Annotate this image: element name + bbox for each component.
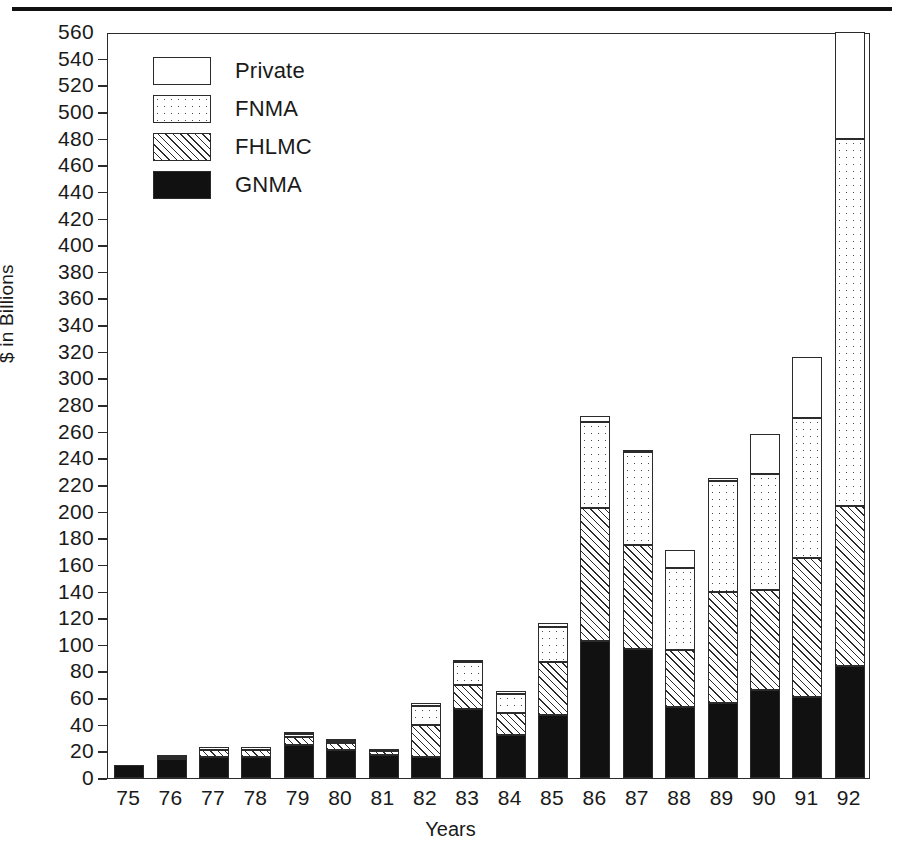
y-tick-label: 500 (24, 100, 94, 124)
bar-89 (708, 32, 738, 778)
bar-segment-92-fnma (835, 139, 865, 507)
bar-segment-87-fhlmc (623, 545, 653, 649)
y-tick-mark (98, 592, 107, 594)
bar-segment-79-gnma (284, 745, 314, 778)
bar-segment-80-private (326, 739, 356, 741)
bar-segment-82-fnma (411, 706, 441, 725)
y-tick-label: 160 (24, 553, 94, 577)
y-tick-mark (98, 778, 107, 780)
bar-76 (157, 32, 187, 778)
bar-segment-83-private (453, 660, 483, 662)
bar-segment-85-gnma (538, 715, 568, 778)
bar-segment-78-fnma (241, 747, 271, 750)
bar-segment-82-fhlmc (411, 725, 441, 757)
y-tick-mark (98, 272, 107, 274)
bar-segment-83-gnma (453, 709, 483, 778)
y-tick-mark (98, 112, 107, 114)
y-tick-mark (98, 139, 107, 141)
bar-86 (580, 32, 610, 778)
bar-segment-88-fnma (665, 568, 695, 651)
y-tick-label: 80 (24, 659, 94, 683)
y-tick-label: 120 (24, 606, 94, 630)
page-top-rule (12, 7, 892, 11)
bar-75 (114, 32, 144, 778)
bar-segment-88-gnma (665, 707, 695, 778)
y-tick-label: 540 (24, 47, 94, 71)
bar-segment-92-gnma (835, 666, 865, 778)
y-tick-mark (98, 512, 107, 514)
bar-segment-77-fnma (199, 747, 229, 750)
y-tick-label: 20 (24, 739, 94, 763)
plot-area: Private FNMA FHLMC GNMA (107, 33, 870, 779)
bar-84 (496, 32, 526, 778)
bar-segment-92-fhlmc (835, 506, 865, 666)
y-tick-label: 460 (24, 153, 94, 177)
bar-segment-89-gnma (708, 703, 738, 778)
y-tick-mark (98, 432, 107, 434)
y-tick-mark (98, 725, 107, 727)
y-tick-label: 140 (24, 580, 94, 604)
bar-segment-92-private (835, 32, 865, 139)
bar-78 (241, 32, 271, 778)
bar-segment-87-fnma (623, 452, 653, 545)
bar-segment-85-fhlmc (538, 662, 568, 715)
bar-segment-86-gnma (580, 641, 610, 778)
bar-segment-78-gnma (241, 757, 271, 778)
y-tick-mark (98, 165, 107, 167)
bar-segment-83-fhlmc (453, 685, 483, 709)
y-tick-mark (98, 59, 107, 61)
bar-segment-90-private (750, 434, 780, 474)
bar-segment-88-fhlmc (665, 650, 695, 707)
y-tick-label: 200 (24, 500, 94, 524)
bar-segment-79-fhlmc (284, 737, 314, 745)
y-tick-mark (98, 378, 107, 380)
bar-segment-91-fhlmc (792, 558, 822, 697)
bar-segment-81-fnma (369, 749, 399, 752)
bar-segment-88-private (665, 550, 695, 567)
bar-segment-79-private (284, 732, 314, 734)
y-tick-label: 560 (24, 20, 94, 44)
bar-segment-84-gnma (496, 735, 526, 778)
x-tick-label-92: 92 (824, 786, 874, 810)
bar-segment-82-gnma (411, 757, 441, 778)
y-tick-label: 520 (24, 73, 94, 97)
y-tick-mark (98, 698, 107, 700)
y-tick-label: 480 (24, 127, 94, 151)
x-axis-label: Years (0, 818, 901, 841)
bar-segment-84-fnma (496, 694, 526, 713)
y-tick-label: 380 (24, 260, 94, 284)
y-tick-label: 360 (24, 286, 94, 310)
y-tick-mark (98, 219, 107, 221)
y-tick-label: 0 (24, 766, 94, 790)
bar-85 (538, 32, 568, 778)
y-tick-mark (98, 192, 107, 194)
bar-segment-84-fhlmc (496, 713, 526, 736)
y-tick-label: 280 (24, 393, 94, 417)
bar-segment-80-fnma (326, 741, 356, 744)
bar-segment-87-gnma (623, 649, 653, 778)
bar-segment-90-gnma (750, 690, 780, 778)
bar-82 (411, 32, 441, 778)
y-tick-mark (98, 645, 107, 647)
y-tick-mark (98, 405, 107, 407)
bar-segment-90-fnma (750, 474, 780, 590)
bar-81 (369, 32, 399, 778)
y-tick-label: 60 (24, 686, 94, 710)
y-tick-label: 100 (24, 633, 94, 657)
bar-segment-83-fnma (453, 662, 483, 685)
y-tick-label: 240 (24, 446, 94, 470)
bar-79 (284, 32, 314, 778)
bar-segment-91-fnma (792, 418, 822, 558)
bar-segment-87-private (623, 450, 653, 452)
bar-88 (665, 32, 695, 778)
bar-segment-79-fnma (284, 734, 314, 737)
bar-segment-91-private (792, 357, 822, 418)
y-tick-mark (98, 538, 107, 540)
y-tick-mark (98, 618, 107, 620)
bar-segment-78-fhlmc (241, 750, 271, 757)
y-axis: $ in Billions 02040608010012014016018020… (0, 33, 107, 779)
y-tick-mark (98, 458, 107, 460)
bar-segment-85-fnma (538, 627, 568, 662)
bar-segment-90-fhlmc (750, 590, 780, 690)
bar-segment-89-fnma (708, 481, 738, 592)
